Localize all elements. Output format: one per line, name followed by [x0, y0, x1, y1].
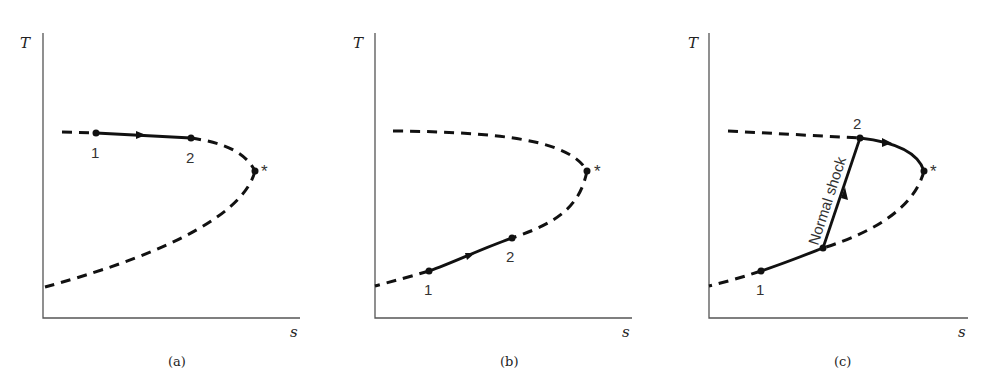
lower-branch	[709, 271, 761, 286]
panel-b: T s 1 2 * (b)	[353, 33, 632, 369]
lower-branch	[512, 171, 587, 238]
point-1	[426, 268, 433, 275]
upper-branch	[728, 131, 860, 138]
critical-point	[921, 168, 928, 175]
label-1: 1	[424, 281, 432, 298]
label-2: 2	[186, 149, 194, 166]
point-2	[188, 135, 195, 142]
point-2	[509, 235, 516, 242]
label-2: 2	[853, 115, 861, 132]
lower-branch	[375, 271, 429, 286]
label-star: *	[930, 162, 937, 181]
label-1: 1	[756, 281, 764, 298]
point-1	[93, 130, 100, 137]
x-axis-label: s	[290, 323, 298, 341]
label-2: 2	[506, 248, 514, 265]
label-1: 1	[91, 144, 99, 161]
label-star: *	[261, 162, 268, 181]
ts-diagrams: T s 1 2 * (a) T s 1 2 * (b)	[0, 0, 994, 391]
point-2	[857, 135, 864, 142]
panel-c: T s 1 2 * Normal shock (c)	[688, 33, 968, 369]
point-1	[758, 268, 765, 275]
lower-branch	[45, 171, 255, 287]
panel-a: T s 1 2 * (a)	[20, 33, 300, 369]
upper-branch	[393, 131, 587, 171]
arrow-icon	[465, 253, 475, 260]
critical-point	[584, 168, 591, 175]
arrow-icon	[882, 138, 892, 147]
x-axis-label: s	[958, 323, 966, 341]
caption: (c)	[834, 354, 851, 369]
y-axis-label: T	[20, 34, 31, 52]
label-star: *	[594, 162, 601, 181]
process-line-upper	[860, 138, 924, 171]
critical-point	[252, 168, 259, 175]
upper-branch	[62, 132, 96, 133]
arrow-icon	[136, 131, 146, 139]
x-axis-label: s	[622, 323, 630, 341]
upper-branch	[191, 138, 255, 171]
y-axis-label: T	[353, 34, 364, 52]
caption: (b)	[500, 354, 518, 369]
process-line	[761, 248, 823, 271]
y-axis-label: T	[688, 34, 699, 52]
caption: (a)	[168, 354, 186, 369]
